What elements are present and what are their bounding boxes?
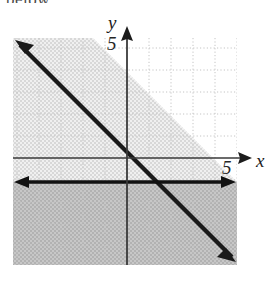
inequality-graph-figure: below. bbox=[0, 0, 276, 284]
x-axis-tick-label-5: 5 bbox=[222, 157, 232, 179]
y-axis-tick-label-5: 5 bbox=[107, 33, 117, 55]
region-overlap bbox=[13, 182, 237, 265]
x-axis-arrowhead bbox=[238, 152, 252, 164]
x-axis-label: x bbox=[256, 150, 264, 172]
y-axis-arrowhead bbox=[121, 26, 133, 41]
y-axis-label: y bbox=[108, 12, 116, 34]
coordinate-plane-graph bbox=[0, 0, 276, 284]
